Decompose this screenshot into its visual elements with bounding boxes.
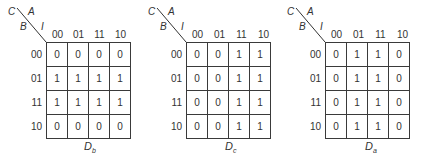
- title-main: D: [225, 140, 233, 152]
- kmap-grid: 0011 0011 0011 0011: [186, 42, 271, 139]
- cell: 0: [187, 115, 208, 139]
- cell: 1: [229, 43, 250, 67]
- cell: 0: [89, 43, 110, 67]
- column-header: 00: [326, 30, 347, 40]
- row-header: 10: [164, 122, 182, 132]
- column-header: 00: [47, 30, 68, 40]
- row-header: 01: [164, 74, 182, 84]
- kmap-grid: 0110 0110 0110 0110: [325, 42, 410, 139]
- kmap-grid: 0000 1111 1111 0000: [46, 42, 131, 139]
- cell: 0: [389, 67, 410, 91]
- cell: 0: [68, 43, 89, 67]
- title-main: D: [84, 140, 92, 152]
- cell: 0: [110, 43, 131, 67]
- row-header: 01: [303, 74, 321, 84]
- cell: 0: [187, 43, 208, 67]
- corner-label-c: C: [8, 7, 15, 17]
- corner-label-b: B: [20, 22, 27, 32]
- row-header: 11: [303, 98, 321, 108]
- grid-row: 1111: [47, 91, 131, 115]
- cell: 1: [229, 115, 250, 139]
- cell: 0: [208, 67, 229, 91]
- row-header: 11: [24, 98, 42, 108]
- cell: 1: [250, 43, 271, 67]
- grid-row: 0110: [326, 43, 410, 67]
- cell: 0: [187, 67, 208, 91]
- column-header: 10: [110, 30, 131, 40]
- cell: 0: [47, 115, 68, 139]
- cell: 0: [187, 91, 208, 115]
- grid-row: 0000: [47, 43, 131, 67]
- cell: 0: [89, 115, 110, 139]
- grid-row: 0110: [326, 67, 410, 91]
- column-header: 11: [89, 30, 110, 40]
- column-header: 11: [231, 30, 252, 40]
- cell: 1: [250, 115, 271, 139]
- cell: 1: [89, 91, 110, 115]
- column-header: 01: [68, 30, 89, 40]
- grid-row: 1111: [47, 67, 131, 91]
- cell: 0: [389, 91, 410, 115]
- title-main: D: [365, 140, 373, 152]
- cell: 1: [368, 67, 389, 91]
- row-header: 00: [164, 50, 182, 60]
- grid-row: 0110: [326, 115, 410, 139]
- corner-label-b: B: [299, 22, 306, 32]
- cell: 1: [89, 67, 110, 91]
- row-header: 00: [24, 50, 42, 60]
- cell: 0: [110, 115, 131, 139]
- map-title: Db: [84, 140, 96, 154]
- cell: 1: [68, 91, 89, 115]
- corner-label-a: A: [307, 7, 314, 17]
- cell: 1: [347, 91, 368, 115]
- title-subscript: c: [233, 147, 237, 154]
- title-subscript: b: [92, 147, 96, 154]
- cell: 0: [208, 91, 229, 115]
- grid-row: 0011: [187, 115, 271, 139]
- cell: 1: [347, 115, 368, 139]
- grid-row: 0011: [187, 67, 271, 91]
- corner-label-a: A: [168, 7, 175, 17]
- column-header: 01: [348, 30, 369, 40]
- title-subscript: a: [373, 147, 377, 154]
- cell: 0: [47, 43, 68, 67]
- cell: 1: [250, 91, 271, 115]
- cell: 1: [347, 43, 368, 67]
- cell: 1: [368, 115, 389, 139]
- cell: 1: [229, 67, 250, 91]
- cell: 0: [326, 43, 347, 67]
- map-title: Dc: [225, 140, 236, 154]
- cell: 0: [326, 91, 347, 115]
- cell: 1: [229, 91, 250, 115]
- corner-label-c: C: [148, 7, 155, 17]
- cell: 0: [68, 115, 89, 139]
- grid-row: 0110: [326, 91, 410, 115]
- row-header: 10: [303, 122, 321, 132]
- corner-label-a: A: [28, 7, 35, 17]
- cell: 1: [110, 91, 131, 115]
- column-header: 11: [370, 30, 391, 40]
- karnaugh-map-dc: C A B I 00 01 11 10 00 01 11 10 0011 001…: [140, 0, 280, 162]
- corner-label-i: I: [181, 22, 184, 32]
- column-header: 01: [209, 30, 230, 40]
- cell: 0: [389, 115, 410, 139]
- row-header: 00: [303, 50, 321, 60]
- cell: 1: [47, 67, 68, 91]
- grid-row: 0011: [187, 43, 271, 67]
- karnaugh-map-da: C A B I 00 01 11 10 00 01 11 10 0110 011…: [279, 0, 419, 162]
- cell: 1: [68, 67, 89, 91]
- corner-label-b: B: [160, 22, 167, 32]
- cell: 0: [389, 43, 410, 67]
- row-header: 10: [24, 122, 42, 132]
- cell: 0: [208, 115, 229, 139]
- corner-label-i: I: [320, 22, 323, 32]
- cell: 1: [47, 91, 68, 115]
- cell: 1: [368, 91, 389, 115]
- corner-label-c: C: [287, 7, 294, 17]
- karnaugh-map-db: C A B I 00 01 11 10 00 01 11 10 0000 111…: [0, 0, 140, 162]
- cell: 0: [208, 43, 229, 67]
- cell: 0: [326, 115, 347, 139]
- map-title: Da: [365, 140, 377, 154]
- grid-row: 0011: [187, 91, 271, 115]
- corner-label-i: I: [41, 22, 44, 32]
